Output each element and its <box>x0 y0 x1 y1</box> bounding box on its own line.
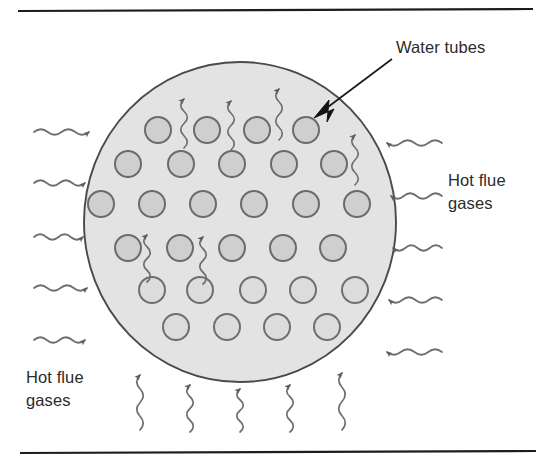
water-tube <box>187 277 213 303</box>
water-tube <box>139 191 165 217</box>
water-tube <box>344 191 370 217</box>
label-hot-flue-gases-bottom-left-line2: gases <box>26 391 71 409</box>
bottom-gas-arrow <box>187 385 194 432</box>
left-flue-gas-arrow <box>34 180 85 186</box>
water-tube <box>167 235 193 261</box>
bottom-gas-arrow <box>287 385 294 432</box>
callout-leader-line <box>320 59 392 113</box>
bottom-gas-arrow <box>339 373 346 430</box>
bottom-rule <box>20 451 536 453</box>
water-tube <box>241 191 267 217</box>
water-tube <box>342 277 368 303</box>
boiler-shell <box>84 62 396 382</box>
water-tube <box>115 235 141 261</box>
water-tube <box>321 151 347 177</box>
water-tube <box>240 277 266 303</box>
water-tube <box>194 117 220 143</box>
right-flue-gas-arrow <box>389 297 442 303</box>
water-tube <box>264 314 290 340</box>
water-tube <box>320 235 346 261</box>
top-rule <box>18 9 533 11</box>
left-flue-gas-arrow <box>34 129 89 135</box>
right-flue-gas-arrow <box>387 349 442 355</box>
water-tube <box>115 151 141 177</box>
right-flue-gas-arrow <box>393 245 442 251</box>
left-flue-gas-arrows-group <box>34 129 89 343</box>
water-tube <box>168 151 194 177</box>
water-tube <box>293 117 319 143</box>
water-tube <box>190 191 216 217</box>
boiler-cross-section-diagram: Water tubes Hot flue gases Hot flue gase… <box>0 0 546 466</box>
bottom-gas-arrow <box>137 375 144 430</box>
water-tube <box>139 277 165 303</box>
label-hot-flue-gases-right-line2: gases <box>448 194 493 212</box>
right-flue-gas-arrows-group <box>387 140 442 355</box>
water-tube <box>271 151 297 177</box>
water-tube <box>145 117 171 143</box>
water-tube <box>219 235 245 261</box>
water-tube <box>214 314 240 340</box>
left-flue-gas-arrow <box>34 337 85 343</box>
water-tube <box>290 277 316 303</box>
water-tube <box>270 235 296 261</box>
label-hot-flue-gases-right-line1: Hot flue <box>448 171 506 189</box>
left-flue-gas-arrow <box>34 234 83 240</box>
water-tube <box>88 191 114 217</box>
water-tube <box>219 151 245 177</box>
water-tube <box>314 314 340 340</box>
left-flue-gas-arrow <box>34 285 87 291</box>
boiler-shell-group <box>84 62 396 382</box>
figure-root: Water tubes Hot flue gases Hot flue gase… <box>0 0 546 466</box>
right-flue-gas-arrow <box>387 140 442 146</box>
water-tube <box>244 117 270 143</box>
water-tube <box>163 314 189 340</box>
bottom-gas-arrow <box>237 389 244 432</box>
label-water-tubes: Water tubes <box>396 38 485 56</box>
label-hot-flue-gases-bottom-left-line1: Hot flue <box>26 368 84 386</box>
right-flue-gas-arrow <box>391 193 442 199</box>
water-tube <box>293 191 319 217</box>
